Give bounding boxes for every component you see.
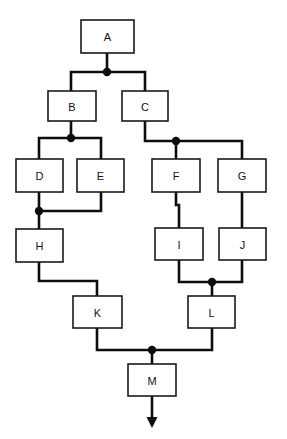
junction-dot-j-c-split — [172, 137, 180, 145]
arrow-layer — [147, 417, 158, 428]
junction-dot-j-b-split — [67, 134, 75, 142]
edge-j-b-split-to-d — [39, 138, 71, 159]
junction-dot-j-ij-merge — [208, 278, 216, 286]
node-c[interactable]: C — [122, 91, 168, 121]
diagram-svg-canvas: ABCDEFGHIJKLM — [0, 0, 287, 439]
node-label-k: K — [94, 307, 102, 319]
node-label-h: H — [36, 240, 44, 252]
node-b[interactable]: B — [48, 91, 96, 121]
node-label-e: E — [97, 170, 104, 182]
node-label-l: L — [208, 307, 214, 319]
node-d[interactable]: D — [16, 159, 63, 192]
output-arrow-icon — [147, 417, 158, 428]
node-e[interactable]: E — [77, 159, 124, 192]
edge-h-to-k — [39, 262, 97, 296]
edge-e-to-j-de-merge — [39, 192, 101, 211]
node-l[interactable]: L — [188, 296, 235, 328]
node-label-c: C — [141, 101, 149, 113]
edge-j-b-split-to-e — [71, 138, 101, 159]
node-label-f: F — [173, 170, 180, 182]
node-m[interactable]: M — [128, 364, 176, 396]
edge-f-to-i — [176, 192, 179, 228]
node-label-i: I — [177, 239, 180, 251]
nodes-layer: ABCDEFGHIJKLM — [16, 20, 266, 396]
node-a[interactable]: A — [81, 20, 134, 53]
node-label-g: G — [238, 170, 247, 182]
edge-c-to-j-c-split — [145, 121, 176, 141]
node-label-a: A — [104, 31, 112, 43]
flowchart-diagram: ABCDEFGHIJKLM — [0, 0, 287, 439]
edge-j-a-split-to-b — [71, 72, 107, 91]
edge-j-c-split-to-g — [176, 141, 242, 159]
node-j[interactable]: J — [219, 228, 266, 260]
edge-j-a-split-to-c — [107, 72, 145, 91]
junction-dot-j-kl-merge — [148, 346, 156, 354]
edge-j-to-j-ij-merge — [212, 260, 242, 282]
node-k[interactable]: K — [73, 296, 122, 328]
junction-dot-j-a-split — [103, 68, 111, 76]
node-label-b: B — [68, 101, 75, 113]
edge-l-to-j-kl-merge — [152, 328, 212, 350]
node-g[interactable]: G — [218, 159, 266, 192]
junction-dot-j-de-merge — [35, 207, 43, 215]
node-label-d: D — [36, 170, 44, 182]
node-label-m: M — [147, 375, 156, 387]
node-f[interactable]: F — [152, 159, 200, 192]
node-i[interactable]: I — [155, 228, 203, 260]
node-label-j: J — [240, 239, 246, 251]
edge-k-to-j-kl-merge — [97, 328, 152, 350]
edge-i-to-j-ij-merge — [179, 260, 212, 282]
node-h[interactable]: H — [16, 229, 63, 262]
